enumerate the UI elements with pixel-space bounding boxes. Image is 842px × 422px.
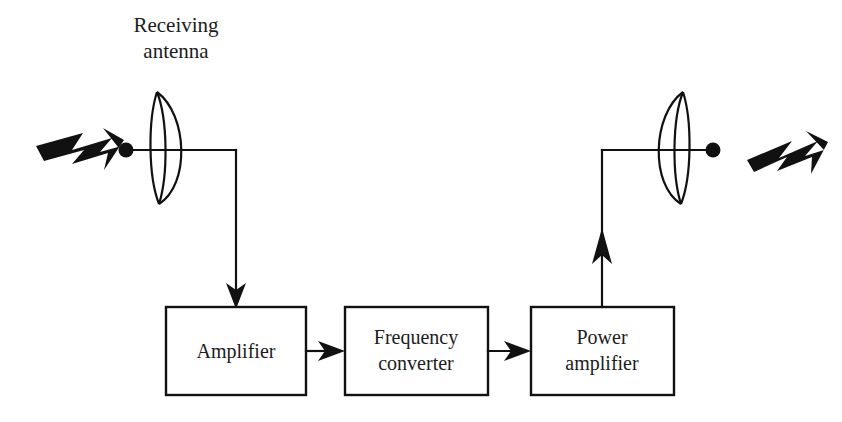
block-diagram-root: Receiving antenna Amplifier — [0, 0, 842, 422]
block-frequency-converter-label-line1: Frequency — [374, 326, 458, 349]
block-amplifier[interactable]: Amplifier — [166, 307, 306, 395]
transmitting-antenna-dish-icon — [659, 92, 690, 204]
block-frequency-converter[interactable]: Frequency converter — [345, 307, 488, 395]
block-frequency-converter-rect[interactable] — [345, 307, 488, 395]
receiving-antenna-label-line2: antenna — [143, 39, 209, 63]
connector-converter-to-power-amplifier — [488, 341, 531, 361]
block-power-amplifier-label-line1: Power — [576, 326, 627, 348]
receiving-antenna-label-line1: Receiving — [133, 13, 219, 37]
receiving-antenna-dish-icon — [150, 92, 181, 204]
diagram-canvas: Receiving antenna Amplifier — [0, 0, 842, 422]
receiving-antenna-label: Receiving antenna — [133, 13, 219, 63]
connector-amplifier-to-converter — [306, 341, 345, 361]
transmitting-antenna-feed-dot — [706, 143, 721, 158]
outgoing-wave-bolt-icon — [747, 131, 828, 174]
incoming-wave-bolt-icon — [36, 128, 124, 170]
block-frequency-converter-label-line2: converter — [378, 352, 454, 374]
block-power-amplifier[interactable]: Power amplifier — [531, 307, 674, 395]
block-power-amplifier-rect[interactable] — [531, 307, 674, 395]
block-power-amplifier-label-line2: amplifier — [565, 352, 639, 375]
block-amplifier-label: Amplifier — [197, 340, 276, 363]
